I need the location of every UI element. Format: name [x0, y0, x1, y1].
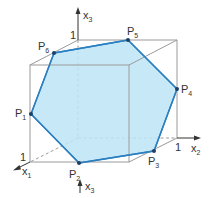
- label-p4: P4: [181, 83, 192, 97]
- label-p3: P3: [148, 155, 159, 169]
- x3-label: x3: [83, 9, 93, 23]
- x2-label: x2: [191, 142, 201, 156]
- label-p5: P5: [127, 25, 138, 39]
- label-p2: P2: [69, 168, 80, 182]
- x3-unit-tick: 1: [70, 29, 76, 41]
- x2-unit-tick: 1: [175, 141, 181, 153]
- x1-label: x1: [22, 165, 32, 179]
- x2-arrow-icon: [194, 136, 201, 141]
- diagram-svg: x3 1 x2 1 x1 1 x3 P1 P2 P3 P4 P5 P6: [0, 0, 216, 198]
- label-p6: P6: [38, 40, 49, 54]
- point-p5: [126, 38, 130, 42]
- x3-arrow-icon: [76, 7, 81, 14]
- point-p3: [152, 149, 156, 153]
- hexagon-cross-section: [31, 40, 177, 163]
- label-p1: P1: [15, 107, 26, 121]
- point-p2: [77, 161, 81, 165]
- point-p1: [29, 112, 33, 116]
- x1-unit-tick: 1: [20, 151, 26, 163]
- cube-cross-section-diagram: x3 1 x2 1 x1 1 x3 P1 P2 P3 P4 P5 P6: [0, 0, 216, 198]
- x1-arrow-icon: [13, 165, 21, 171]
- x3-bottom-label: x3: [85, 180, 95, 194]
- point-p6: [52, 51, 56, 55]
- point-p4: [175, 87, 179, 91]
